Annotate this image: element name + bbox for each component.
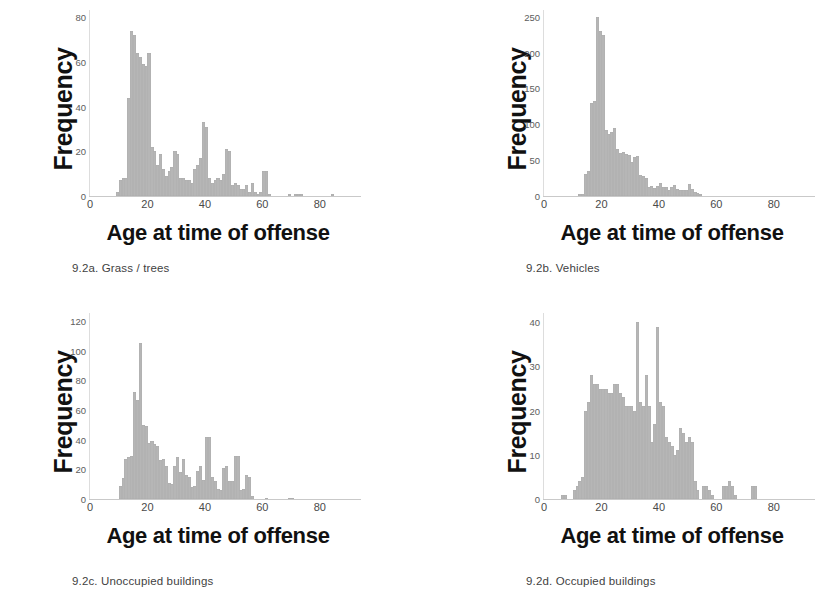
y-tick-label: 80 — [75, 12, 86, 23]
x-tick-label: 40 — [653, 501, 665, 513]
x-axis-title: Age at time of offense — [522, 523, 822, 549]
panel-9-2b: Frequency 050100150200250 020406080 Age … — [420, 0, 835, 303]
x-axis-line — [89, 499, 361, 500]
x-tick-label: 40 — [653, 198, 665, 210]
y-tick-label: 120 — [70, 315, 86, 326]
histogram-bar — [696, 490, 699, 499]
histogram-bar — [268, 194, 271, 196]
y-tick-labels: 050100150200250 — [514, 6, 540, 196]
x-tick-label: 60 — [256, 198, 268, 210]
plot-area — [544, 309, 814, 499]
histogram-bars — [90, 6, 360, 196]
x-axis-line — [543, 196, 815, 197]
y-tick-label: 100 — [524, 119, 540, 130]
y-tick-label: 50 — [529, 155, 540, 166]
y-tick-label: 200 — [524, 47, 540, 58]
plot-area — [544, 6, 814, 196]
plot-area — [90, 6, 360, 196]
x-tick-label: 20 — [595, 501, 607, 513]
histogram-bar — [265, 498, 268, 499]
x-tick-label: 60 — [710, 501, 722, 513]
y-tick-label: 100 — [70, 345, 86, 356]
histogram-bar — [288, 194, 291, 196]
y-tick-label: 60 — [75, 56, 86, 67]
x-tick-label: 60 — [256, 501, 268, 513]
panel-9-2c: Frequency 020406080100120 020406080 Age … — [0, 303, 420, 606]
y-tick-label: 60 — [75, 404, 86, 415]
histogram-bar — [564, 495, 567, 499]
y-tick-label: 10 — [529, 449, 540, 460]
y-tick-label: 0 — [535, 191, 540, 202]
plot-block-b: Frequency 050100150200250 020406080 Age … — [462, 6, 832, 211]
x-tick-label: 20 — [141, 198, 153, 210]
y-tick-labels: 020406080 — [60, 6, 86, 196]
x-axis-title: Age at time of offense — [522, 220, 822, 246]
x-tick-labels: 020406080 — [544, 501, 814, 517]
y-tick-label: 20 — [75, 464, 86, 475]
x-axis-line — [543, 499, 815, 500]
x-tick-label: 40 — [199, 501, 211, 513]
histogram-bars — [544, 6, 814, 196]
histogram-bar — [300, 194, 303, 196]
panel-caption: 9.2d. Occupied buildings — [526, 575, 656, 587]
histogram-bars — [544, 309, 814, 499]
x-tick-label: 0 — [541, 198, 547, 210]
histogram-bar — [251, 496, 254, 499]
x-axis-title: Age at time of offense — [68, 523, 368, 549]
x-tick-labels: 020406080 — [544, 198, 814, 214]
histogram-bars — [90, 309, 360, 499]
panel-caption: 9.2b. Vehicles — [526, 262, 600, 274]
x-axis-title: Age at time of offense — [68, 220, 368, 246]
plot-block-a: Frequency 020406080 020406080 Age at tim… — [8, 6, 378, 211]
x-tick-label: 0 — [541, 501, 547, 513]
y-tick-label: 0 — [81, 191, 86, 202]
plot-area — [90, 309, 360, 499]
panel-caption: 9.2c. Unoccupied buildings — [72, 575, 213, 587]
panel-9-2d: Frequency 010203040 020406080 Age at tim… — [420, 303, 835, 606]
y-tick-label: 40 — [529, 317, 540, 328]
x-tick-labels: 020406080 — [90, 501, 360, 517]
y-tick-labels: 010203040 — [514, 309, 540, 499]
x-tick-label: 0 — [87, 501, 93, 513]
x-tick-label: 20 — [141, 501, 153, 513]
y-tick-label: 250 — [524, 11, 540, 22]
histogram-bar — [331, 194, 334, 196]
histogram-bar — [711, 495, 714, 499]
x-tick-label: 40 — [199, 198, 211, 210]
y-tick-label: 80 — [75, 375, 86, 386]
x-tick-label: 80 — [768, 501, 780, 513]
x-tick-label: 80 — [314, 501, 326, 513]
x-tick-label: 80 — [314, 198, 326, 210]
x-tick-labels: 020406080 — [90, 198, 360, 214]
y-tick-label: 0 — [81, 494, 86, 505]
y-tick-label: 30 — [529, 361, 540, 372]
histogram-bar — [699, 194, 702, 196]
panel-caption: 9.2a. Grass / trees — [72, 262, 169, 274]
x-tick-label: 20 — [595, 198, 607, 210]
figure-grid: Frequency 020406080 020406080 Age at tim… — [0, 0, 835, 606]
histogram-bar — [754, 486, 757, 499]
y-tick-label: 20 — [529, 405, 540, 416]
x-tick-label: 80 — [768, 198, 780, 210]
y-tick-label: 0 — [535, 494, 540, 505]
histogram-bar — [265, 171, 268, 196]
y-tick-label: 20 — [75, 146, 86, 157]
y-tick-label: 40 — [75, 101, 86, 112]
y-tick-labels: 020406080100120 — [60, 309, 86, 499]
histogram-bar — [734, 495, 737, 499]
x-axis-line — [89, 196, 361, 197]
x-tick-label: 60 — [710, 198, 722, 210]
plot-block-c: Frequency 020406080100120 020406080 Age … — [8, 309, 378, 514]
histogram-bar — [291, 498, 294, 499]
panel-9-2a: Frequency 020406080 020406080 Age at tim… — [0, 0, 420, 303]
plot-block-d: Frequency 010203040 020406080 Age at tim… — [462, 309, 832, 514]
y-tick-label: 40 — [75, 434, 86, 445]
x-tick-label: 0 — [87, 198, 93, 210]
y-tick-label: 150 — [524, 83, 540, 94]
